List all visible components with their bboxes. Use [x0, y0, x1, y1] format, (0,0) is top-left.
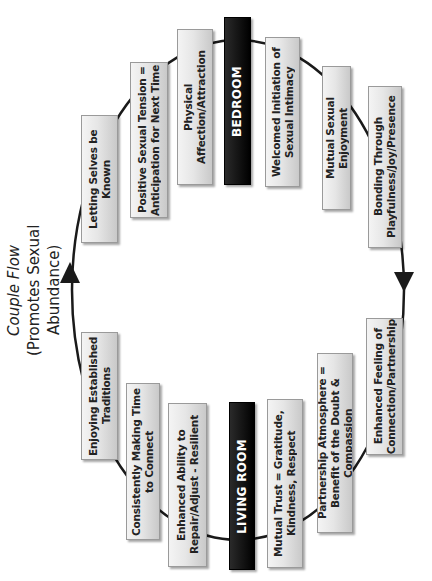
step-label: Consistently Making Time to Connect — [130, 384, 156, 539]
arrow-down-icon — [394, 272, 414, 292]
step-partnership-atmosphere: Partnership Atmosphere = Benefit of the … — [317, 353, 353, 533]
bedroom-header: BEDROOM — [224, 17, 251, 185]
step-label: Mutual Sexual Enjoyment — [324, 67, 350, 209]
step-label: Letting Selves be Known — [87, 116, 113, 242]
step-positive-sexual-tension: Positive Sexual Tension = Anticipation f… — [130, 62, 168, 218]
step-label: Partnership Atmosphere = Benefit of the … — [317, 354, 353, 532]
title-subtitle: (Promotes Sexual Abundance) — [24, 190, 64, 390]
step-mutual-sexual-enjoyment: Mutual Sexual Enjoyment — [322, 66, 351, 210]
header-label: BEDROOM — [231, 66, 244, 137]
step-physical-affection: Physical Affection/Attraction — [177, 29, 213, 185]
step-bonding-through-playfulness: Bonding Through Playfulness/Joy/Presence — [368, 86, 402, 248]
step-label: Welcomed Initiation of Sexual Intimacy — [270, 38, 296, 186]
step-enhanced-feeling-of-connection: Enhanced Feeling of Connection/Partnersh… — [366, 318, 403, 455]
step-mutual-trust: Mutual Trust = Gratitude, Kindness, Resp… — [267, 399, 303, 568]
diagram-title: Couple Flow (Promotes Sexual Abundance) — [4, 190, 64, 390]
step-letting-selves-be-known: Letting Selves be Known — [81, 115, 118, 243]
step-label: Enjoying Established Traditions — [87, 333, 113, 459]
title-main: Couple Flow — [4, 190, 24, 390]
step-label: Enhanced Ability to Repair/Adjust - Resi… — [175, 404, 201, 566]
step-label: Physical Affection/Attraction — [182, 30, 208, 184]
step-label: Enhanced Feeling of Connection/Partnersh… — [372, 319, 398, 454]
step-enjoying-established-traditions: Enjoying Established Traditions — [81, 332, 118, 460]
step-welcomed-initiation: Welcomed Initiation of Sexual Intimacy — [265, 37, 300, 187]
step-consistently-making-time: Consistently Making Time to Connect — [126, 383, 160, 540]
step-label: Mutual Trust = Gratitude, Kindness, Resp… — [272, 400, 298, 567]
step-label: Positive Sexual Tension = Anticipation f… — [136, 63, 162, 217]
header-label: LIVING ROOM — [236, 439, 249, 534]
living-room-header: LIVING ROOM — [229, 402, 255, 570]
step-label: Bonding Through Playfulness/Joy/Presence — [372, 87, 398, 247]
step-enhanced-ability-to-repair: Enhanced Ability to Repair/Adjust - Resi… — [168, 403, 207, 567]
